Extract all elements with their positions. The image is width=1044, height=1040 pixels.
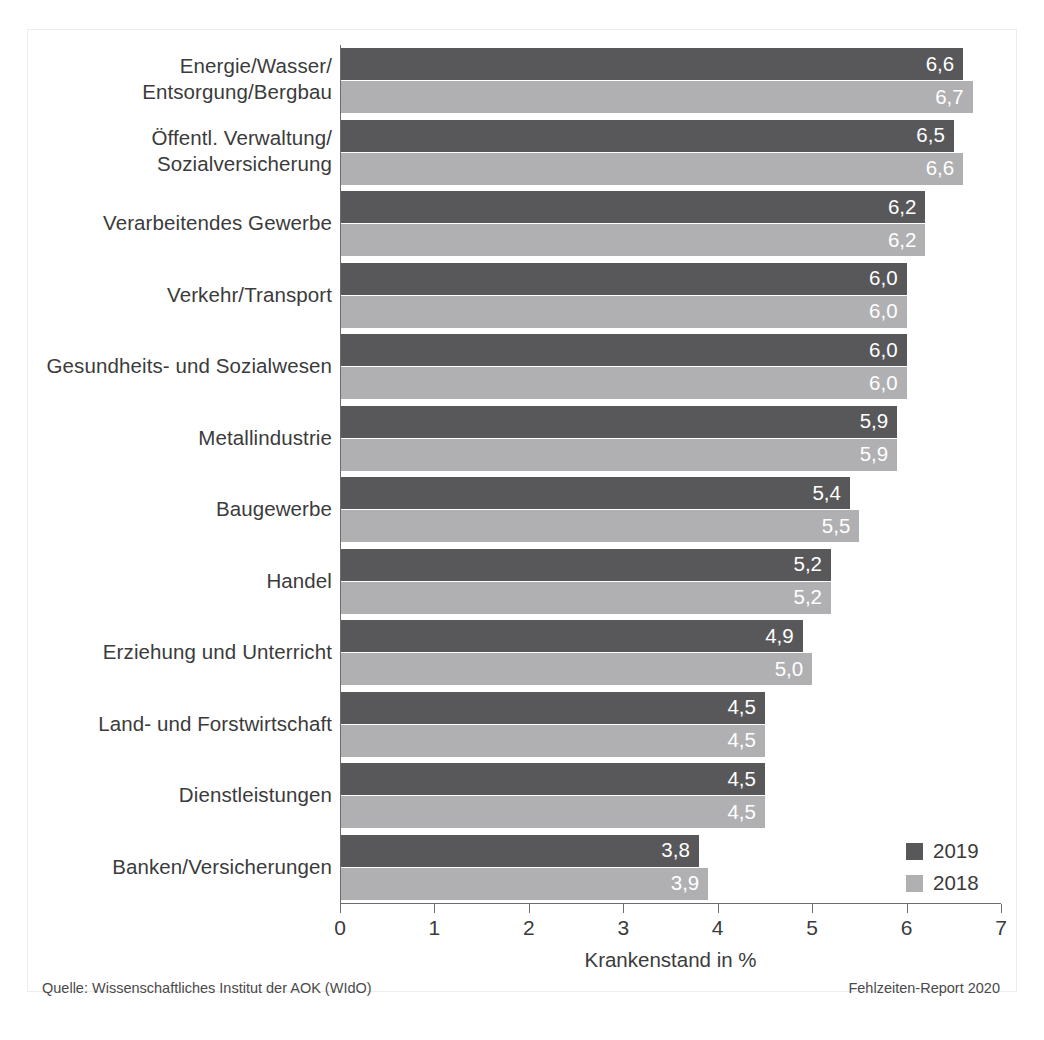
bar-2019[interactable]: 6,6 bbox=[340, 48, 963, 80]
bar-value-label: 6,6 bbox=[926, 158, 964, 179]
bar-row: Verkehr/Transport6,06,0 bbox=[0, 260, 1044, 331]
bar-row: Energie/Wasser/ Entsorgung/Bergbau6,66,7 bbox=[0, 45, 1044, 116]
legend-label: 2019 bbox=[933, 841, 979, 862]
x-tick-label: 3 bbox=[603, 916, 643, 940]
category-label: Verkehr/Transport bbox=[2, 282, 332, 308]
bar-value-label: 6,5 bbox=[916, 125, 954, 146]
category-label: Metallindustrie bbox=[2, 425, 332, 451]
x-tick-label: 4 bbox=[698, 916, 738, 940]
bar-2018[interactable]: 6,7 bbox=[340, 81, 973, 113]
bar-2019[interactable]: 5,9 bbox=[340, 406, 897, 438]
x-tick bbox=[529, 904, 530, 913]
bar-2019[interactable]: 3,8 bbox=[340, 835, 699, 867]
bar-value-label: 6,0 bbox=[869, 268, 907, 289]
bar-2018[interactable]: 6,0 bbox=[340, 367, 907, 399]
bar-row: Metallindustrie5,95,9 bbox=[0, 403, 1044, 474]
bar-row: Gesundheits- und Sozialwesen6,06,0 bbox=[0, 331, 1044, 402]
x-tick-label: 1 bbox=[414, 916, 454, 940]
chart-legend: 20192018 bbox=[906, 838, 979, 902]
bar-value-label: 4,5 bbox=[727, 730, 765, 751]
legend-item[interactable]: 2018 bbox=[906, 870, 979, 896]
bar-value-label: 6,0 bbox=[869, 373, 907, 394]
x-axis-line bbox=[340, 903, 1001, 904]
bar-2018[interactable]: 5,0 bbox=[340, 653, 812, 685]
bar-2019[interactable]: 5,4 bbox=[340, 477, 850, 509]
bar-pair: 5,25,2 bbox=[340, 546, 1044, 617]
chart-page: Energie/Wasser/ Entsorgung/Bergbau6,66,7… bbox=[0, 0, 1044, 1040]
bar-pair: 6,56,6 bbox=[340, 117, 1044, 188]
bar-2018[interactable]: 4,5 bbox=[340, 796, 765, 828]
bar-2019[interactable]: 6,0 bbox=[340, 263, 907, 295]
bar-pair: 6,06,0 bbox=[340, 260, 1044, 331]
bar-value-label: 6,2 bbox=[888, 197, 926, 218]
category-label: Land- und Forstwirtschaft bbox=[2, 711, 332, 737]
y-axis-line bbox=[340, 45, 341, 903]
bar-pair: 6,06,0 bbox=[340, 331, 1044, 402]
category-label: Dienstleistungen bbox=[2, 782, 332, 808]
bar-value-label: 4,9 bbox=[765, 626, 803, 647]
bar-2019[interactable]: 6,5 bbox=[340, 120, 954, 152]
footer-source-text: Quelle: Wissenschaftliches Institut der … bbox=[42, 980, 372, 996]
bar-pair: 5,45,5 bbox=[340, 474, 1044, 545]
bar-row: Baugewerbe5,45,5 bbox=[0, 474, 1044, 545]
category-label: Erziehung und Unterricht bbox=[2, 639, 332, 665]
bar-value-label: 6,2 bbox=[888, 230, 926, 251]
bar-value-label: 5,9 bbox=[860, 411, 898, 432]
legend-item[interactable]: 2019 bbox=[906, 838, 979, 864]
x-tick bbox=[1001, 904, 1002, 913]
x-tick bbox=[907, 904, 908, 913]
bar-pair: 5,95,9 bbox=[340, 403, 1044, 474]
bar-row: Erziehung und Unterricht4,95,0 bbox=[0, 617, 1044, 688]
bar-pair: 4,54,5 bbox=[340, 689, 1044, 760]
footer-report-text: Fehlzeiten-Report 2020 bbox=[848, 980, 1000, 996]
x-axis-title: Krankenstand in % bbox=[340, 948, 1001, 972]
category-label: Energie/Wasser/ Entsorgung/Bergbau bbox=[2, 53, 332, 105]
bar-value-label: 6,0 bbox=[869, 301, 907, 322]
bar-2019[interactable]: 4,5 bbox=[340, 763, 765, 795]
bar-row: Banken/Versicherungen3,83,9 bbox=[0, 832, 1044, 903]
bar-2018[interactable]: 6,0 bbox=[340, 296, 907, 328]
bar-2019[interactable]: 4,9 bbox=[340, 620, 803, 652]
category-label: Öffentl. Verwaltung/ Sozialversicherung bbox=[2, 125, 332, 177]
legend-label: 2018 bbox=[933, 873, 979, 894]
x-tick bbox=[623, 904, 624, 913]
bar-value-label: 3,9 bbox=[671, 873, 709, 894]
bar-pair: 4,54,5 bbox=[340, 760, 1044, 831]
bar-chart: Energie/Wasser/ Entsorgung/Bergbau6,66,7… bbox=[0, 0, 1044, 1040]
bar-value-label: 5,0 bbox=[775, 659, 813, 680]
bar-pair: 6,66,7 bbox=[340, 45, 1044, 116]
bar-value-label: 6,6 bbox=[926, 54, 964, 75]
bar-2018[interactable]: 4,5 bbox=[340, 725, 765, 757]
bar-value-label: 4,5 bbox=[727, 769, 765, 790]
category-label: Banken/Versicherungen bbox=[2, 854, 332, 880]
bar-row: Öffentl. Verwaltung/ Sozialversicherung6… bbox=[0, 117, 1044, 188]
bar-row: Dienstleistungen4,54,5 bbox=[0, 760, 1044, 831]
bar-value-label: 5,2 bbox=[794, 587, 832, 608]
category-label: Verarbeitendes Gewerbe bbox=[2, 210, 332, 236]
x-tick bbox=[812, 904, 813, 913]
legend-swatch-icon bbox=[906, 875, 923, 892]
bar-2019[interactable]: 5,2 bbox=[340, 549, 831, 581]
bar-2018[interactable]: 6,6 bbox=[340, 153, 963, 185]
bar-value-label: 5,4 bbox=[812, 483, 850, 504]
legend-swatch-icon bbox=[906, 843, 923, 860]
bar-value-label: 6,0 bbox=[869, 340, 907, 361]
bar-value-label: 3,8 bbox=[661, 840, 699, 861]
x-tick-label: 2 bbox=[509, 916, 549, 940]
bar-2019[interactable]: 6,2 bbox=[340, 191, 925, 223]
bar-2019[interactable]: 4,5 bbox=[340, 692, 765, 724]
bar-2018[interactable]: 6,2 bbox=[340, 224, 925, 256]
x-tick-label: 7 bbox=[981, 916, 1021, 940]
bar-2019[interactable]: 6,0 bbox=[340, 334, 907, 366]
bar-2018[interactable]: 5,2 bbox=[340, 582, 831, 614]
bar-value-label: 4,5 bbox=[727, 697, 765, 718]
bar-2018[interactable]: 3,9 bbox=[340, 868, 708, 900]
bar-2018[interactable]: 5,5 bbox=[340, 510, 859, 542]
category-label: Baugewerbe bbox=[2, 496, 332, 522]
bar-2018[interactable]: 5,9 bbox=[340, 439, 897, 471]
x-tick-label: 5 bbox=[792, 916, 832, 940]
bar-row: Handel5,25,2 bbox=[0, 546, 1044, 617]
x-tick bbox=[718, 904, 719, 913]
bar-pair: 6,26,2 bbox=[340, 188, 1044, 259]
bar-pair: 4,95,0 bbox=[340, 617, 1044, 688]
